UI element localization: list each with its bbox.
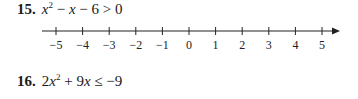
tick-label: −1 [156, 38, 169, 52]
tick-label: −4 [76, 38, 89, 52]
tick-label: 0 [186, 38, 192, 52]
problem-number: 16. [17, 73, 36, 89]
arrow-right-icon [332, 28, 340, 35]
tick-label: 4 [292, 38, 298, 52]
tick-label: 5 [319, 38, 325, 52]
tick-label: −5 [50, 38, 63, 52]
tick-label: 1 [213, 38, 219, 52]
tick-label: 2 [239, 38, 245, 52]
problem-16: 16.2x2 + 9x ≤ −9 [17, 73, 122, 90]
tick-label: 3 [266, 38, 272, 52]
tick-label: −2 [129, 38, 142, 52]
tick-label: −3 [103, 38, 116, 52]
inequality-expression: 2x2 + 9x ≤ −9 [42, 73, 123, 89]
